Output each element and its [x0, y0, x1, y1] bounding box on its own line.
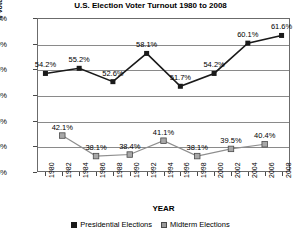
data-point-marker [212, 71, 217, 76]
legend-label-midterm: Midterm Elections [170, 220, 230, 229]
data-point-marker [228, 146, 234, 152]
data-point-marker [93, 153, 99, 159]
legend-swatch-presidential-icon [71, 222, 77, 228]
legend-item-midterm[interactable]: Midterm Elections [161, 220, 230, 229]
data-point-marker [144, 51, 149, 56]
legend-swatch-midterm-icon [161, 222, 167, 228]
data-point-label: 60.1% [237, 30, 258, 39]
x-axis-title: YEAR [37, 204, 290, 213]
chart-legend: Presidential Elections Midterm Elections [0, 220, 301, 229]
data-point-marker [178, 84, 183, 89]
data-point-marker [110, 79, 115, 84]
data-point-marker [161, 138, 167, 144]
data-point-label: 39.5% [220, 136, 241, 145]
legend-label-presidential: Presidential Elections [80, 220, 152, 229]
data-point-marker [279, 33, 284, 38]
data-point-label: 38.4% [119, 142, 140, 151]
data-point-marker [127, 152, 132, 158]
data-point-label: 54.2% [203, 60, 224, 69]
legend-item-presidential[interactable]: Presidential Elections [71, 220, 152, 229]
data-point-label: 42.1% [52, 123, 73, 132]
data-point-label: 61.6% [271, 22, 292, 31]
data-point-label: 51.7% [170, 73, 191, 82]
data-point-label: 52.6% [102, 69, 123, 78]
data-point-marker [262, 142, 268, 148]
data-point-label: 38.1% [85, 143, 106, 152]
data-point-marker [194, 153, 200, 159]
data-point-marker [43, 71, 48, 76]
data-point-label: 58.1% [136, 40, 157, 49]
data-point-label: 55.2% [69, 55, 90, 64]
data-point-label: 54.2% [35, 60, 56, 69]
data-point-marker [60, 133, 66, 139]
voter-turnout-chart: U.S. Election Voter Turnout 1980 to 2008… [0, 0, 301, 239]
data-point-marker [77, 66, 82, 71]
data-point-label: 38.1% [187, 143, 208, 152]
data-point-marker [245, 41, 250, 46]
data-point-label: 41.1% [153, 128, 174, 137]
data-point-label: 40.4% [254, 131, 275, 140]
